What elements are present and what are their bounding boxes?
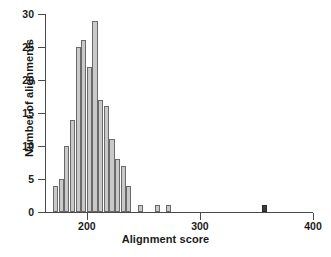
y-tick-20 bbox=[38, 80, 45, 81]
histogram-bar bbox=[155, 205, 160, 212]
y-axis-label: Number of alignments bbox=[23, 13, 35, 183]
histogram-bar bbox=[138, 205, 143, 212]
histogram-figure: Number of alignments Alignment score 051… bbox=[0, 0, 331, 257]
histogram-bar bbox=[87, 67, 92, 212]
x-tick-label-300: 300 bbox=[180, 221, 220, 232]
histogram-bar bbox=[121, 166, 126, 212]
histogram-bar bbox=[59, 179, 64, 212]
histogram-bar bbox=[104, 106, 109, 212]
histogram-bars bbox=[45, 14, 313, 212]
y-tick-label-10: 10 bbox=[0, 141, 34, 152]
histogram-bar bbox=[109, 139, 114, 212]
histogram-bar bbox=[81, 40, 86, 212]
histogram-bar bbox=[98, 100, 103, 212]
histogram-bar bbox=[76, 47, 81, 212]
x-tick-label-200: 200 bbox=[67, 221, 107, 232]
histogram-bar bbox=[166, 205, 171, 212]
histogram-bar bbox=[262, 205, 267, 212]
y-tick-30 bbox=[38, 14, 45, 15]
x-tick-300 bbox=[200, 213, 201, 220]
x-tick-label-400: 400 bbox=[293, 221, 331, 232]
y-tick-15 bbox=[38, 113, 45, 114]
y-tick-label-25: 25 bbox=[0, 42, 34, 53]
histogram-bar bbox=[64, 146, 69, 212]
y-tick-label-30: 30 bbox=[0, 9, 34, 20]
histogram-bar bbox=[70, 120, 75, 212]
y-tick-label-0: 0 bbox=[0, 207, 34, 218]
y-tick-label-5: 5 bbox=[0, 174, 34, 185]
y-tick-label-20: 20 bbox=[0, 75, 34, 86]
histogram-bar bbox=[92, 21, 97, 212]
x-tick-200 bbox=[87, 213, 88, 220]
y-tick-10 bbox=[38, 146, 45, 147]
y-tick-5 bbox=[38, 179, 45, 180]
histogram-bar bbox=[53, 186, 58, 212]
y-tick-25 bbox=[38, 47, 45, 48]
x-axis-line bbox=[45, 212, 313, 213]
x-tick-400 bbox=[313, 213, 314, 220]
y-tick-label-15: 15 bbox=[0, 108, 34, 119]
x-axis-label: Alignment score bbox=[0, 233, 331, 245]
histogram-bar bbox=[115, 159, 120, 212]
y-tick-0 bbox=[38, 212, 45, 213]
histogram-bar bbox=[126, 186, 131, 212]
